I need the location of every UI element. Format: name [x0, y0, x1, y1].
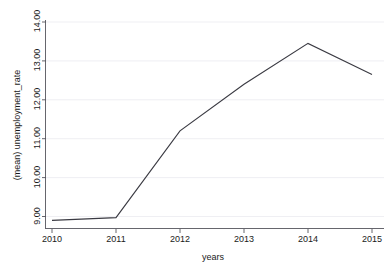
- y-tick-label-9: 9.00: [32, 207, 42, 225]
- x-tick-label-2013: 2013: [234, 234, 254, 244]
- y-tick-label-14: 14.00: [32, 10, 42, 33]
- x-tick-label-2014: 2014: [298, 234, 318, 244]
- y-tick-label-12: 12.00: [32, 88, 42, 111]
- x-tick-label-2015: 2015: [362, 234, 382, 244]
- y-axis-title: (mean) unemployment_rate: [12, 70, 22, 181]
- y-tick-label-13: 13.00: [32, 49, 42, 72]
- y-tick-label-10: 10.00: [32, 166, 42, 189]
- y-tick-label-11: 11.00: [32, 127, 42, 149]
- x-tick-label-2010: 2010: [42, 234, 62, 244]
- x-axis-title: years: [202, 252, 225, 262]
- x-tick-label-2011: 2011: [106, 234, 125, 244]
- line-chart: 9.00 10.00 11.00 12.00 13.00 14.00 2010 …: [0, 0, 391, 273]
- x-tick-label-2012: 2012: [170, 234, 190, 244]
- chart-canvas: 9.00 10.00 11.00 12.00 13.00 14.00 2010 …: [0, 0, 391, 273]
- chart-background: [0, 0, 391, 273]
